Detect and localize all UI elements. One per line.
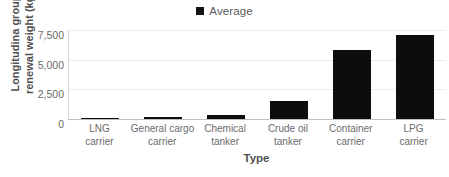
x-axis-title: Type (68, 152, 445, 164)
y-axis-tick-label: 0 (30, 119, 64, 129)
bar-chart: Average Longitudina group renewal weight… (0, 0, 449, 177)
y-axis-tick-label: 7,500 (30, 30, 64, 40)
bar (396, 35, 434, 119)
x-axis-tick-label: Containercarrier (319, 122, 382, 148)
x-axis-tick-labels: LNGcarrierGeneral cargocarrierChemicalta… (68, 122, 445, 150)
plot-area (68, 30, 445, 119)
x-axis-tick-label: LPGcarrier (382, 122, 445, 148)
x-axis-line (68, 119, 445, 120)
x-axis-tick-label: Chemicaltanker (194, 122, 257, 148)
legend-label-average: Average (209, 5, 252, 17)
x-axis-tick-label: LNGcarrier (68, 122, 131, 148)
bar (270, 101, 308, 119)
bar (333, 50, 371, 119)
y-axis-tick-labels: 02,5005,0007,500 (30, 24, 64, 124)
legend-swatch-average-icon (196, 7, 204, 15)
gridline (69, 30, 446, 31)
gridline (69, 89, 446, 90)
y-axis-title-line1: Longitudina group (8, 0, 22, 92)
chart-legend: Average (0, 2, 449, 20)
x-axis-tick-label: General cargocarrier (131, 122, 194, 148)
y-axis-tick-label: 2,500 (30, 89, 64, 99)
gridline (69, 60, 446, 61)
x-axis-tick-label: Crude oiltanker (257, 122, 320, 148)
y-axis-tick-label: 5,000 (30, 60, 64, 70)
